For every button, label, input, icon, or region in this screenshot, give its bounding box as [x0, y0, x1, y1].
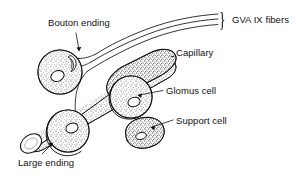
label-glomus-cell: Glomus cell [166, 85, 216, 96]
fiber-brace: } [219, 8, 226, 30]
label-bouton-ending: Bouton ending [48, 17, 110, 28]
label-gva-ix-fibers: GVA IX fibers [232, 14, 289, 25]
figure-canvas: Bouton ending } GVA IX fibers Capillary … [0, 0, 307, 177]
label-large-ending: Large ending [18, 157, 74, 168]
label-capillary: Capillary [176, 47, 213, 58]
anatomical-diagram [0, 0, 307, 177]
label-support-cell: Support cell [176, 115, 227, 126]
diagram-ink [0, 0, 307, 177]
